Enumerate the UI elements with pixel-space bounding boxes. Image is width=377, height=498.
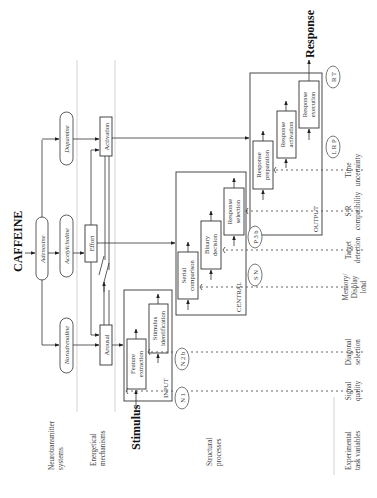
- row-label-energetical-1: Energetical: [90, 433, 98, 466]
- task-var-target-1: Target: [345, 241, 353, 259]
- feature-extraction-line1: Feature: [129, 354, 136, 374]
- response-execution-line1: Response: [301, 92, 308, 117]
- task-var-memory-1: Memory/: [342, 274, 350, 301]
- task-var-sr-2: compatibility: [354, 191, 362, 230]
- link-break-a: [99, 256, 104, 275]
- task-var-time-2: uncertainty: [354, 153, 362, 186]
- central-stage-label: CENTRAL: [235, 282, 242, 312]
- erp-sn-label: S N: [252, 270, 259, 280]
- effort-to-arousal-arrow: [91, 262, 99, 335]
- acetylcholine-label: Acetylcholine: [63, 228, 70, 265]
- task-var-memory-3: load: [360, 280, 368, 293]
- arrowhead: [274, 167, 276, 173]
- link-break-b: [104, 263, 109, 282]
- binary-decision-line1: Binary: [203, 235, 210, 254]
- row-label-task-2: task variables: [354, 430, 362, 470]
- erp-lrp-label: L R P: [330, 139, 337, 154]
- activation-label: Activation: [103, 122, 110, 151]
- row-label-neurotransmitter-1: Neurotransmitter: [48, 420, 56, 470]
- response-activation-line1: Response: [279, 122, 286, 147]
- serial-comparison-line2: comparison: [188, 259, 195, 290]
- task-var-signal-2: quality: [354, 381, 362, 401]
- task-var-target-2: detection: [354, 236, 362, 263]
- task-var-diagonal-2: selection: [354, 339, 362, 365]
- effort-to-activation-arrow: [91, 150, 99, 225]
- stimulus-identification-line1: Stimulus: [151, 316, 158, 340]
- adenosine-label: Adenosine: [39, 235, 46, 264]
- row-label-task-1: Experimental: [345, 431, 353, 470]
- arrowhead: [223, 247, 225, 253]
- row-label-energetical-2: mechanisms: [99, 430, 107, 466]
- response-execution-line2: execution: [309, 91, 316, 117]
- caffeine-title: CAFFEINE: [11, 211, 25, 272]
- erp-p3b-label: P 3 b: [252, 230, 259, 244]
- row-label-structural-2: processes: [215, 438, 223, 466]
- input-stage-label: INPUT: [162, 379, 169, 398]
- row-label-structural-1: Structural: [206, 438, 214, 466]
- effort-label: Effort: [88, 236, 95, 252]
- response-preparation-line1: Response: [255, 152, 262, 177]
- task-var-signal-1: Signal: [345, 382, 353, 400]
- erp-rt-label: R T: [330, 72, 337, 82]
- task-var-memory-2: Display: [351, 275, 359, 298]
- response-preparation-line2: preparation: [263, 149, 270, 180]
- binary-decision-line2: decision: [211, 233, 218, 256]
- dopamine-label: Dopamine: [63, 125, 70, 154]
- serial-comparison-line1: Serial: [180, 268, 187, 284]
- feature-extraction-line2: extraction: [137, 350, 144, 377]
- caffeine-information-processing-diagram: CAFFEINE Adenosine Dopamine Acetylcholin…: [0, 0, 377, 498]
- row-label-neurotransmitter-2: systems: [57, 447, 65, 470]
- stimulus-identification-line2: identification: [159, 310, 166, 346]
- response-activation-line2: activation: [287, 121, 294, 148]
- erp-n2b-label: N 2 b: [179, 351, 186, 366]
- stimulus-label: Stimulus: [129, 404, 143, 450]
- task-var-diagonal-1: Diagonal: [345, 339, 353, 365]
- response-selection-line2: selection: [234, 199, 241, 223]
- response-selection-line1: Response: [226, 199, 233, 224]
- task-var-time-1: Time: [345, 163, 353, 178]
- output-stage-label: OUTPUT: [312, 206, 319, 232]
- noradrenaline-label: Noradrenaline: [63, 326, 70, 366]
- arousal-label: Arousal: [103, 334, 110, 355]
- erp-n1-label: N 1: [179, 393, 186, 403]
- response-label: Response: [303, 9, 317, 58]
- task-var-sr-1: S-R: [345, 205, 353, 216]
